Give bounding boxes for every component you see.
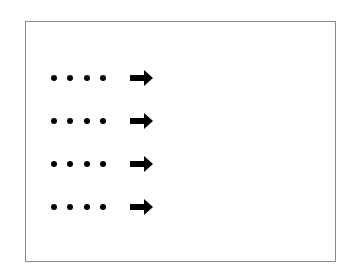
bullet-dot-icon (84, 75, 90, 81)
bullet-dot-icon (51, 161, 57, 167)
bullet-dot-icon (67, 161, 73, 167)
bullet-dot-icon (100, 118, 106, 124)
bullet-dot-icon (67, 75, 73, 81)
bullet-dot-icon (84, 118, 90, 124)
right-arrow-icon (130, 113, 154, 129)
bullet-dot-icon (67, 204, 73, 210)
diagram-frame (25, 21, 336, 262)
right-arrow-icon (130, 156, 154, 172)
bullet-dot-icon (84, 204, 90, 210)
diagram-row-4 (26, 199, 335, 215)
bullet-dot-icon (100, 75, 106, 81)
right-arrow-icon (130, 199, 154, 215)
bullet-dot-icon (84, 161, 90, 167)
bullet-dot-icon (51, 204, 57, 210)
right-arrow-icon (130, 70, 154, 86)
bullet-dot-icon (67, 118, 73, 124)
bullet-dot-icon (51, 75, 57, 81)
bullet-dot-icon (100, 204, 106, 210)
diagram-row-1 (26, 70, 335, 86)
bullet-dot-icon (51, 118, 57, 124)
bullet-dot-icon (100, 161, 106, 167)
diagram-row-3 (26, 156, 335, 172)
diagram-row-2 (26, 113, 335, 129)
